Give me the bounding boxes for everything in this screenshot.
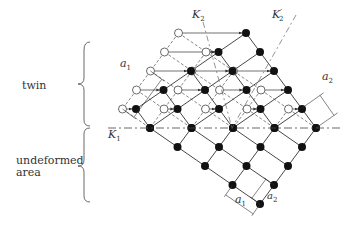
twin-bond: [219, 33, 247, 52]
twin-brace: [78, 42, 90, 126]
lattice-bond: [150, 128, 178, 147]
a2-label-bottom: a2: [267, 190, 277, 204]
twinning-diagram: K1 K2 K′2 a1 a2 a1 a2: [0, 0, 352, 225]
twin-bond: [261, 90, 289, 109]
a1-label-top: a1: [120, 57, 131, 72]
a1-dimension-top-line: [134, 79, 162, 117]
lattice-bond: [261, 147, 289, 166]
a1-dimension-bottom-ext: [224, 185, 232, 197]
matrix-atom: [215, 143, 223, 151]
twin-atom: [174, 105, 182, 113]
twin-bond: [178, 90, 206, 109]
lattice-bond: [205, 166, 233, 185]
original-atom-position: [202, 48, 210, 56]
original-atom-position: [160, 105, 168, 113]
twin-atom: [242, 29, 250, 37]
original-atom-position: [161, 48, 169, 56]
twin-atom: [256, 48, 264, 56]
original-atom-position: [133, 86, 141, 94]
twin-bond: [219, 90, 247, 109]
original-atom-position: [174, 86, 182, 94]
matrix-atom: [201, 162, 209, 170]
lattice-bond: [192, 128, 220, 147]
matrix-atom: [243, 162, 251, 170]
a2-dimension-right-ext: [302, 93, 324, 108]
k2-label: K2: [191, 8, 205, 23]
matrix-atom: [284, 162, 292, 170]
lattice-bond: [219, 147, 247, 166]
undeformed-brace: [78, 128, 90, 202]
twin-atom: [201, 86, 209, 94]
k2-prime-label: K′2: [271, 7, 284, 23]
twin-atom: [270, 67, 278, 75]
twin-bond: [136, 90, 164, 109]
a2-dimension-right-line: [320, 95, 334, 115]
original-atom-position: [202, 105, 210, 113]
a2-dimension-right-ext: [316, 113, 338, 128]
original-atom-position: [257, 86, 265, 94]
original-atom-position: [243, 105, 251, 113]
original-atom-position: [285, 105, 293, 113]
matrix-atom: [174, 143, 182, 151]
twin-atom: [284, 86, 292, 94]
twin-atom: [215, 105, 223, 113]
a2-dimension-bottom-line: [252, 179, 266, 198]
twin-atom: [187, 67, 195, 75]
original-atom-position: [175, 29, 183, 37]
lattice-bond: [275, 128, 303, 147]
matrix-atom: [257, 143, 265, 151]
twin-atom: [243, 86, 251, 94]
twin-atom: [132, 105, 140, 113]
lattice-bond: [178, 147, 206, 166]
twin-atom: [215, 48, 223, 56]
original-bond: [179, 33, 207, 52]
a2-label-right: a2: [322, 70, 333, 85]
twin-atom: [257, 105, 265, 113]
k1-label: K1: [107, 128, 121, 143]
lattice-bond: [233, 128, 261, 147]
original-bond: [165, 52, 193, 71]
twin-atom: [229, 67, 237, 75]
a1-label-bottom: a1: [235, 193, 246, 208]
twin-atom: [160, 86, 168, 94]
matrix-atom: [298, 143, 306, 151]
